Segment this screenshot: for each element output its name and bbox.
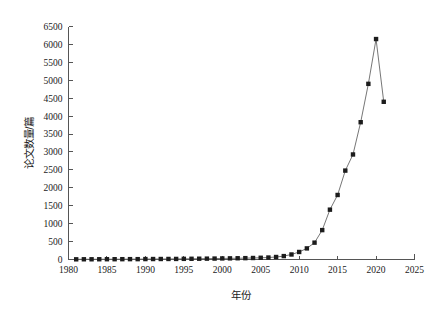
data-point-marker [297, 250, 301, 254]
x-tick-label: 1990 [136, 265, 155, 275]
data-point-marker [97, 257, 101, 261]
data-point-marker [358, 120, 362, 124]
data-point-marker [243, 256, 247, 260]
data-point-marker [274, 255, 278, 259]
y-tick-label: 1000 [44, 219, 63, 229]
data-point-marker [143, 257, 147, 261]
data-point-marker [259, 256, 263, 260]
data-point-marker [205, 256, 209, 260]
data-point-marker [112, 257, 116, 261]
data-point-marker [351, 152, 355, 156]
y-axis-title: 论文数量/篇 [23, 117, 35, 170]
y-tick-label: 1500 [44, 201, 63, 211]
data-point-marker [197, 257, 201, 261]
data-point-marker [235, 256, 239, 260]
chart-figure: 0500100015002000250030003500400045005000… [0, 0, 435, 315]
data-point-marker [159, 257, 163, 261]
data-point-marker [266, 255, 270, 259]
x-tick-label: 1985 [97, 265, 116, 275]
data-point-marker [182, 257, 186, 261]
data-point-marker [120, 257, 124, 261]
data-point-marker [251, 256, 255, 260]
data-point-marker [320, 228, 324, 232]
data-point-marker [128, 257, 132, 261]
series-line [76, 39, 384, 259]
y-tick-label: 2500 [44, 165, 63, 175]
x-tick-label: 2020 [367, 265, 386, 275]
data-point-marker [212, 256, 216, 260]
x-tick-label: 2015 [328, 265, 347, 275]
y-axis-tick-labels: 0500100015002000250030003500400045005000… [44, 22, 63, 265]
y-tick-label: 6500 [44, 22, 63, 32]
x-tick-label: 2000 [213, 265, 232, 275]
data-point-marker [189, 257, 193, 261]
data-point-marker [89, 257, 93, 261]
data-point-marker [82, 257, 86, 261]
y-tick-label: 3500 [44, 129, 63, 139]
data-point-marker [328, 207, 332, 211]
line-chart: 0500100015002000250030003500400045005000… [0, 0, 435, 315]
y-tick-label: 2000 [44, 183, 63, 193]
y-tick-label: 5500 [44, 58, 63, 68]
data-point-marker [105, 257, 109, 261]
data-point-marker [151, 257, 155, 261]
x-tick-label: 2025 [405, 265, 424, 275]
x-axis-title: 年份 [231, 289, 252, 301]
data-point-marker [335, 193, 339, 197]
data-point-marker [174, 257, 178, 261]
data-point-marker [305, 246, 309, 250]
data-point-marker [228, 256, 232, 260]
data-point-marker [166, 257, 170, 261]
data-point-marker [289, 252, 293, 256]
y-tick-label: 500 [48, 237, 63, 247]
data-point-marker [382, 100, 386, 104]
data-point-marker [374, 37, 378, 41]
x-tick-label: 1980 [59, 265, 78, 275]
data-point-marker [220, 256, 224, 260]
x-tick-label: 2010 [290, 265, 309, 275]
data-point-marker [136, 257, 140, 261]
x-tick-label: 2005 [251, 265, 270, 275]
data-point-marker [312, 240, 316, 244]
data-point-marker [366, 82, 370, 86]
y-tick-label: 5000 [44, 76, 63, 86]
series-markers [74, 37, 386, 262]
y-tick-label: 4500 [44, 94, 63, 104]
data-point-marker [343, 168, 347, 172]
data-point-marker [74, 257, 78, 261]
y-tick-label: 4000 [44, 112, 63, 122]
y-tick-label: 6000 [44, 40, 63, 50]
x-axis-tick-labels: 1980198519901995200020052010201520202025 [59, 265, 424, 275]
y-tick-label: 3000 [44, 147, 63, 157]
x-tick-label: 1995 [174, 265, 193, 275]
y-axis-tick-marks [69, 27, 73, 260]
y-tick-label: 0 [58, 255, 63, 265]
data-point-marker [282, 254, 286, 258]
